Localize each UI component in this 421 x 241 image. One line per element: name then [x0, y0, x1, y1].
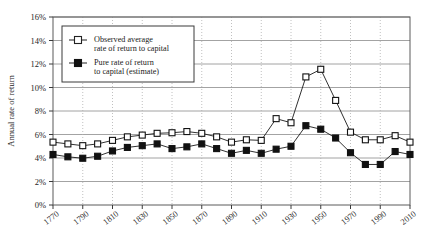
chart-legend: Observed average rate of return to capit…: [62, 26, 194, 82]
data-point-marker: [362, 161, 368, 167]
data-point-marker: [95, 141, 101, 147]
data-point-marker: [214, 146, 220, 152]
y-tick-label: 4%: [35, 153, 46, 163]
data-point-marker: [333, 135, 339, 141]
data-point-marker: [258, 137, 264, 143]
data-point-marker: [318, 66, 324, 72]
data-point-marker: [199, 130, 205, 136]
y-tick-label: 8%: [35, 106, 46, 116]
data-point-marker: [124, 144, 130, 150]
data-point-marker: [407, 139, 413, 145]
data-point-marker: [377, 161, 383, 167]
data-point-marker: [407, 151, 413, 157]
data-point-marker: [80, 155, 86, 161]
x-tick-label: 1810: [101, 208, 121, 226]
data-point-marker: [273, 146, 279, 152]
data-point-marker: [303, 123, 309, 129]
data-point-marker: [110, 148, 116, 154]
x-tick-label: 1790: [71, 208, 91, 226]
data-point-marker: [377, 137, 383, 143]
x-tick-label: 1870: [190, 208, 210, 226]
y-tick-label: 16%: [30, 12, 46, 22]
x-tick-label: 1850: [160, 208, 180, 226]
data-point-marker: [392, 149, 398, 155]
y-tick-label: 0%: [35, 200, 46, 210]
data-point-marker: [169, 130, 175, 136]
chart-container: 0%2%4%6%8%10%12%14%16% 17701790181018301…: [0, 0, 421, 241]
x-tick-label: 1930: [279, 208, 299, 226]
y-tick-label: 6%: [35, 130, 46, 140]
data-point-marker: [288, 143, 294, 149]
x-tick-label: 1910: [250, 208, 270, 226]
data-point-marker: [95, 153, 101, 159]
data-point-marker: [110, 137, 116, 143]
data-point-marker: [50, 139, 56, 145]
data-point-marker: [392, 133, 398, 139]
data-point-marker: [154, 141, 160, 147]
y-axis-ticks: 0%2%4%6%8%10%12%14%16%: [30, 12, 53, 210]
capital-return-line-chart: 0%2%4%6%8%10%12%14%16% 17701790181018301…: [0, 0, 421, 241]
legend-label-pure-line1: Pure rate of return: [94, 58, 154, 67]
data-point-marker: [258, 150, 264, 156]
data-point-marker: [65, 141, 71, 147]
x-axis-ticks: 1770179018101830185018701890191019301950…: [41, 205, 418, 227]
y-tick-label: 14%: [30, 36, 46, 46]
data-point-marker: [362, 137, 368, 143]
data-point-marker: [243, 147, 249, 153]
data-point-marker: [348, 129, 354, 135]
data-point-marker: [50, 151, 56, 157]
data-point-marker: [303, 74, 309, 80]
x-tick-label: 1890: [220, 208, 240, 226]
x-tick-label: 1990: [369, 208, 389, 226]
x-tick-label: 1970: [339, 208, 359, 226]
data-point-marker: [139, 132, 145, 138]
data-point-marker: [273, 116, 279, 122]
data-point-marker: [80, 143, 86, 149]
x-tick-label: 1830: [131, 208, 151, 226]
legend-label-pure-line2: to capital (estimate): [94, 67, 159, 76]
x-tick-label: 2010: [398, 208, 418, 226]
data-point-marker: [348, 150, 354, 156]
data-point-marker: [214, 134, 220, 140]
data-point-marker: [229, 150, 235, 156]
data-point-marker: [184, 144, 190, 150]
x-tick-label: 1950: [309, 208, 329, 226]
y-tick-label: 12%: [30, 59, 46, 69]
data-point-marker: [229, 139, 235, 145]
y-tick-label: 10%: [30, 83, 46, 93]
x-tick-label: 1770: [41, 208, 61, 226]
legend-label-observed-line2: rate of return to capital: [94, 44, 170, 53]
data-point-marker: [139, 143, 145, 149]
data-point-marker: [184, 129, 190, 135]
data-point-marker: [199, 141, 205, 147]
data-point-marker: [318, 126, 324, 132]
legend-label-observed-line1: Observed average: [94, 35, 153, 44]
y-tick-label: 2%: [35, 177, 46, 187]
data-point-marker: [65, 154, 71, 160]
y-axis-title: Annual rate of return: [6, 74, 16, 146]
data-point-marker: [169, 146, 175, 152]
data-point-marker: [124, 134, 130, 140]
data-point-marker: [288, 120, 294, 126]
y-axis-title-group: Annual rate of return: [6, 74, 16, 146]
data-point-marker: [154, 130, 160, 136]
data-point-marker: [243, 137, 249, 143]
data-point-marker: [333, 97, 339, 103]
